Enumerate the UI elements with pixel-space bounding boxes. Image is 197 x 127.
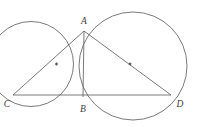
vertex-label-c: C [4,99,11,109]
geometry-figure: A B C D [0,0,197,127]
vertex-label-b: B [80,104,86,114]
geometry-canvas: A B C D [0,0,197,127]
vertex-label-a: A [80,16,87,26]
vertex-label-d: D [176,99,184,109]
